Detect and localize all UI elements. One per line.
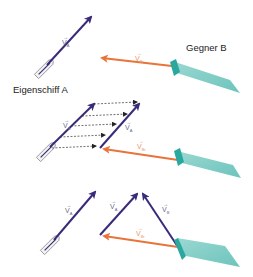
vector-v-a xyxy=(54,192,95,240)
label-v-a: →VA xyxy=(62,35,69,49)
vector-v-a xyxy=(50,104,94,147)
vector-subscript: A xyxy=(115,207,118,212)
label-v-a-triangle: →VA xyxy=(110,199,117,213)
label-v-a: →VA xyxy=(63,118,70,132)
vector-subscript: A xyxy=(68,126,71,131)
label-v-a-shifted: →VA xyxy=(125,120,132,134)
label-v-b-triangle: →VB xyxy=(162,202,169,216)
vector-v-a-triangle xyxy=(100,194,137,235)
label-v-br: →VBr xyxy=(137,139,146,153)
vector-subscript: Br xyxy=(140,59,144,64)
own-ship-label: Eigenschiff A xyxy=(13,84,68,95)
label-v-a: →VA xyxy=(65,203,72,217)
vector-subscript: A xyxy=(67,43,70,48)
vector-subscript: Br xyxy=(142,147,146,152)
vector-v-a-shifted xyxy=(100,104,139,148)
opponent-ship-b-icon xyxy=(174,238,240,267)
vector-subscript: Br xyxy=(141,234,145,239)
vector-subscript: A xyxy=(130,128,133,133)
label-v-br: →VBr xyxy=(135,51,144,65)
opponent-label: Gegner B xyxy=(186,42,227,53)
vector-subscript: A xyxy=(70,211,73,216)
opponent-ship-b-icon xyxy=(174,148,241,178)
vector-diagram: Eigenschiff A Gegner B →VA →VBr →VA →VA … xyxy=(0,0,253,277)
own-ship-a-icon xyxy=(40,234,61,255)
label-v-br: →VBr xyxy=(136,226,145,240)
vector-subscript: B xyxy=(167,210,170,215)
opponent-ship-b-icon xyxy=(170,59,240,93)
